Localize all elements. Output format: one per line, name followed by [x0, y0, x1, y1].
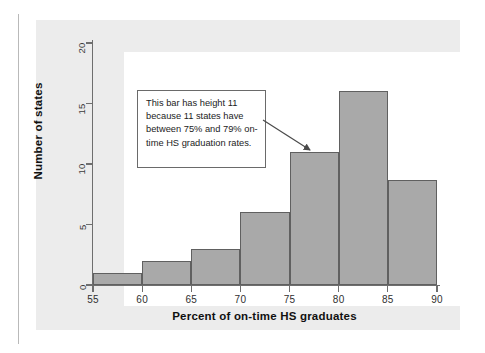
x-axis-tick-label: 65	[176, 294, 206, 305]
x-axis-tick	[240, 286, 241, 292]
histogram-bar	[191, 249, 240, 285]
x-axis-tick	[436, 286, 437, 292]
x-axis-title: Percent of on-time HS graduates	[88, 310, 441, 322]
figure-page: 05101520 5560657075808590 Number of stat…	[0, 0, 485, 353]
x-axis-tick-label: 80	[324, 294, 354, 305]
histogram-bar	[142, 261, 191, 285]
page-margin-rule	[18, 14, 19, 344]
x-axis-tick-label: 60	[127, 294, 157, 305]
histogram-bar	[339, 91, 388, 285]
y-axis-title: Number of states	[32, 41, 44, 221]
x-axis-tick-label: 75	[275, 294, 305, 305]
x-axis-tick-label: 90	[422, 294, 452, 305]
x-axis-tick	[142, 286, 143, 292]
x-axis-tick	[289, 286, 290, 292]
y-axis-tick-label: 5	[77, 224, 88, 229]
histogram-bar	[93, 273, 142, 285]
x-axis-tick	[92, 286, 93, 292]
x-axis-tick	[387, 286, 388, 292]
annotation-arrow-icon	[262, 118, 320, 160]
histogram-bar	[290, 152, 339, 285]
y-axis-tick-label: 10	[77, 164, 88, 175]
y-axis-tick-label: 15	[77, 103, 88, 114]
x-axis-tick	[338, 286, 339, 292]
x-axis-tick-label: 85	[373, 294, 403, 305]
annotation-callout: This bar has height 11 because 11 states…	[137, 90, 266, 168]
y-axis-tick-label: 20	[77, 43, 88, 54]
histogram-bar	[388, 180, 437, 285]
y-axis-tick-label: 0	[77, 285, 88, 290]
histogram-bar	[240, 212, 289, 285]
x-axis-tick-label: 55	[78, 294, 108, 305]
x-axis-tick-label: 70	[225, 294, 255, 305]
x-axis-tick	[191, 286, 192, 292]
y-axis-line	[92, 40, 93, 286]
